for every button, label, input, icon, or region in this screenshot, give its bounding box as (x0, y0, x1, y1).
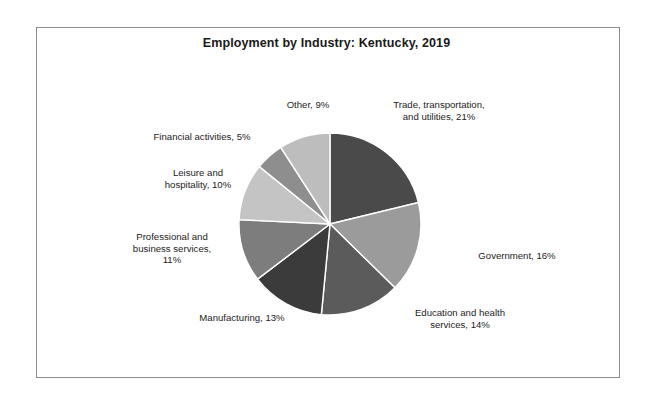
slice-label-government: Government, 16% (452, 250, 582, 262)
slice-label-other: Other, 9% (258, 99, 358, 111)
slice-label-professional-business-services: Professional and business services, 11% (112, 231, 232, 266)
figure-canvas: Employment by Industry: Kentucky, 2019 O… (0, 0, 653, 400)
slice-label-manufacturing: Manufacturing, 13% (172, 312, 312, 324)
slice-label-education-health-services: Education and health services, 14% (390, 307, 530, 330)
pie-chart (0, 0, 653, 400)
slice-label-trade-transportation-utilities: Trade, transportation, and utilities, 21… (364, 99, 514, 122)
slice-label-leisure-hospitality: Leisure and hospitality, 10% (138, 167, 258, 190)
pie-slice-group (239, 133, 421, 315)
slice-label-financial-activities: Financial activities, 5% (132, 131, 272, 143)
